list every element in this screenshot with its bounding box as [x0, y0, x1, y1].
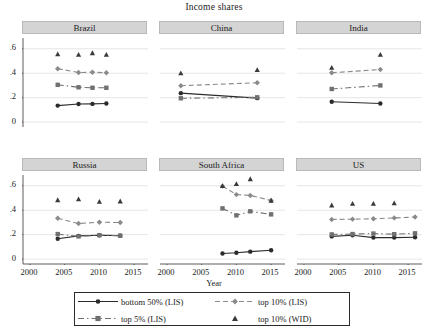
- legend-item-bottom-50-lis: bottom 50% (LIS): [75, 293, 212, 310]
- legend-item-top-10-wid: top 10% (WID): [212, 310, 349, 327]
- x-tick-label: 2015: [392, 267, 422, 277]
- panel-plot-china: [159, 38, 286, 128]
- panel-plot-russia: [22, 175, 149, 265]
- panel-plot-south-africa: [159, 175, 286, 265]
- legend-key-triangle: [212, 310, 258, 327]
- x-tick-label: 2005: [49, 267, 79, 277]
- y-tick-label: 0: [2, 253, 16, 263]
- panel-header-us: US: [296, 158, 421, 171]
- legend-item-top-5-lis: top 5% (LIS): [75, 310, 212, 327]
- panel-header-south-africa: South Africa: [159, 158, 284, 171]
- panel-header-china: China: [159, 21, 284, 34]
- panel-title: China: [211, 23, 233, 33]
- x-tick-label: 2010: [220, 267, 250, 277]
- panel-plot-india: [296, 38, 423, 128]
- x-tick-label: 2000: [288, 267, 318, 277]
- x-tick-label: 2015: [118, 267, 148, 277]
- legend-row: top 5% (LIS) top 10% (WID): [75, 310, 349, 327]
- legend-label: bottom 50% (LIS): [121, 297, 183, 307]
- y-tick-label: .2: [2, 228, 16, 238]
- y-tick-label: .4: [2, 67, 16, 77]
- x-tick-label: 2000: [14, 267, 44, 277]
- panel-title: Brazil: [74, 23, 96, 33]
- panel-plot-us: [296, 175, 423, 265]
- y-tick-label: .4: [2, 204, 16, 214]
- legend-key-dashdot-square: [75, 310, 121, 327]
- panel-title: South Africa: [199, 160, 245, 170]
- panel-title: Russia: [72, 160, 96, 170]
- x-tick-label: 2010: [83, 267, 113, 277]
- y-tick-label: 0: [2, 116, 16, 126]
- x-axis-title: Year: [0, 278, 428, 288]
- panel-header-russia: Russia: [22, 158, 147, 171]
- legend-item-top-10-lis: top 10% (LIS): [212, 293, 349, 310]
- income-shares-figure: Income shares BrazilChinaIndiaRussiaSout…: [0, 0, 428, 332]
- legend-key-dashed-diamond: [212, 293, 258, 310]
- figure-title: Income shares: [0, 2, 428, 12]
- legend-row: bottom 50% (LIS) top 10% (LIS): [75, 293, 349, 310]
- chart-legend: bottom 50% (LIS) top 10% (LIS) top 5% (L…: [74, 292, 350, 326]
- x-tick-label: 2000: [151, 267, 181, 277]
- panel-header-brazil: Brazil: [22, 21, 147, 34]
- panel-plot-brazil: [22, 38, 149, 128]
- panel-header-india: India: [296, 21, 421, 34]
- x-tick-label: 2005: [323, 267, 353, 277]
- x-tick-label: 2015: [255, 267, 285, 277]
- y-tick-label: .6: [2, 179, 16, 189]
- panel-title: US: [353, 160, 365, 170]
- legend-label: top 5% (LIS): [121, 314, 166, 324]
- y-tick-label: .2: [2, 91, 16, 101]
- legend-label: top 10% (WID): [258, 314, 311, 324]
- x-tick-label: 2010: [357, 267, 387, 277]
- panel-title: India: [349, 23, 368, 33]
- legend-key-solid-circle: [75, 293, 121, 310]
- legend-label: top 10% (LIS): [258, 297, 307, 307]
- y-tick-label: .6: [2, 42, 16, 52]
- x-tick-label: 2005: [186, 267, 216, 277]
